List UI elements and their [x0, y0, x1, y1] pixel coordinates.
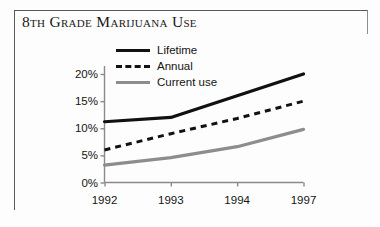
y-tick-label: 20% [75, 68, 98, 80]
y-tick-label: 10% [75, 122, 98, 134]
x-tick-label: 1997 [291, 194, 317, 206]
chart-series-layer [105, 74, 304, 165]
series-line-lifetime [105, 74, 304, 122]
line-chart-plot [0, 0, 380, 227]
x-tick-label: 1992 [92, 194, 118, 206]
y-tick-label: 5% [81, 149, 98, 161]
y-tick-label: 0% [81, 177, 98, 189]
x-tick-label: 1993 [158, 194, 184, 206]
series-line-current-use [105, 129, 304, 165]
y-tick-label: 15% [75, 95, 98, 107]
x-tick-label: 1994 [224, 194, 250, 206]
series-line-annual [105, 101, 304, 150]
